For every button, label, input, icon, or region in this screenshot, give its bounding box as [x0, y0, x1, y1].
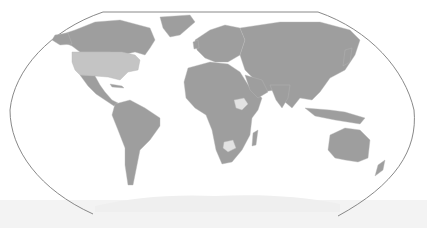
- madagascar: [252, 130, 258, 146]
- south-america: [112, 100, 160, 185]
- australia: [328, 128, 370, 162]
- world-map: [0, 0, 427, 228]
- europe: [195, 25, 245, 62]
- canada: [60, 20, 155, 55]
- antarctica: [95, 195, 340, 212]
- caribbean: [110, 84, 124, 88]
- southeast-asia-islands: [305, 108, 365, 124]
- india: [270, 85, 290, 108]
- uk: [193, 40, 199, 49]
- mexico-central-america: [80, 75, 118, 106]
- new-zealand: [375, 160, 385, 176]
- greenland: [160, 15, 195, 37]
